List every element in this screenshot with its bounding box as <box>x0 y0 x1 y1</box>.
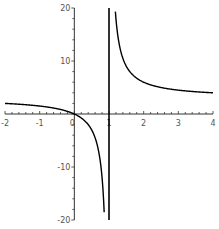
y-tick-label: -20 <box>57 216 70 225</box>
y-tick-label: -10 <box>57 163 70 172</box>
x-tick-label: 2 <box>141 119 146 128</box>
curve-right-branch <box>115 12 213 93</box>
x-tick-label: -1 <box>36 119 44 128</box>
x-tick-label: 3 <box>176 119 181 128</box>
function-plot: -2-112340-20-101020 <box>0 0 219 229</box>
y-tick-label: 20 <box>60 4 70 13</box>
y-tick-label: 10 <box>60 57 70 66</box>
x-tick-label: -2 <box>1 119 9 128</box>
x-tick-label: 4 <box>210 119 215 128</box>
origin-label: 0 <box>70 119 75 128</box>
curve-left-branch <box>5 103 104 212</box>
